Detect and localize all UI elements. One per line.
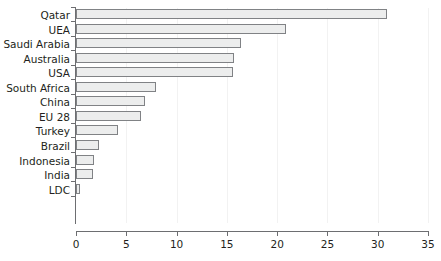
y-axis-tick	[71, 21, 76, 22]
y-axis-label: Indonesia	[19, 156, 70, 167]
y-axis-label: LDC	[49, 185, 70, 196]
x-axis-tick	[126, 231, 127, 236]
x-axis-tick-label: 30	[358, 238, 398, 250]
x-axis-tick	[227, 231, 228, 236]
y-axis-tick	[71, 36, 76, 37]
y-axis-tick	[71, 65, 76, 66]
bar	[76, 82, 156, 92]
y-axis-label: Turkey	[36, 126, 70, 137]
y-axis-label: Brazil	[41, 141, 70, 152]
x-axis-tick-label: 15	[207, 238, 247, 250]
x-axis-tick-label: 10	[157, 238, 197, 250]
y-axis-tick	[71, 152, 76, 153]
bar	[76, 67, 233, 77]
gridline	[428, 8, 429, 223]
y-axis-label: Qatar	[40, 10, 70, 21]
y-axis-tick	[71, 7, 76, 8]
bar	[76, 169, 93, 179]
gridline	[378, 8, 379, 223]
x-axis-tick	[76, 231, 77, 236]
bar	[76, 38, 241, 48]
y-axis-label: South Africa	[6, 83, 70, 94]
y-axis-tick	[71, 137, 76, 138]
y-axis-tick	[71, 94, 76, 95]
bar	[76, 140, 99, 150]
x-axis-tick	[428, 231, 429, 236]
bar	[76, 53, 234, 63]
y-axis-label: China	[40, 97, 70, 108]
y-axis-tick	[71, 50, 76, 51]
plot-area	[76, 8, 428, 223]
bar	[76, 111, 141, 121]
x-axis-tick	[277, 231, 278, 236]
y-axis-label: UEA	[48, 25, 70, 36]
bar	[76, 9, 387, 19]
x-axis-tick	[327, 231, 328, 236]
y-axis-tick	[71, 196, 76, 197]
x-axis-tick-label: 5	[106, 238, 146, 250]
y-axis-label: Australia	[24, 54, 70, 65]
y-axis-tick	[71, 181, 76, 182]
x-axis-tick	[378, 231, 379, 236]
x-axis-line	[76, 231, 429, 232]
x-axis-tick-label: 20	[257, 238, 297, 250]
x-axis-tick-label: 25	[307, 238, 347, 250]
y-axis-label: India	[44, 170, 70, 181]
x-axis-tick-label: 35	[408, 238, 441, 250]
y-axis-label: USA	[48, 68, 70, 79]
y-axis-tick	[71, 123, 76, 124]
x-axis-tick-label: 0	[56, 238, 96, 250]
y-axis-tick	[71, 167, 76, 168]
bar	[76, 125, 118, 135]
bar	[76, 24, 286, 34]
gridline	[327, 8, 328, 223]
y-axis-label: EU 28	[39, 112, 70, 123]
y-axis-label: Saudi Arabia	[3, 39, 70, 50]
bar	[76, 96, 145, 106]
gridline	[277, 8, 278, 223]
bar	[76, 184, 80, 194]
y-axis-tick	[71, 108, 76, 109]
bar	[76, 155, 94, 165]
y-axis-tick	[71, 79, 76, 80]
x-axis-tick	[177, 231, 178, 236]
bar-chart: QatarUEASaudi ArabiaAustraliaUSASouth Af…	[0, 0, 441, 261]
